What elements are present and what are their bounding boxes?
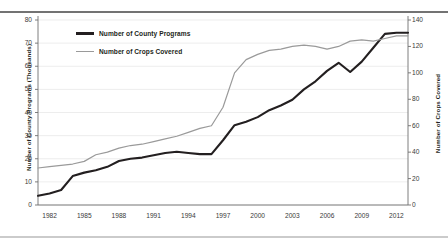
- x-tick-label: 2003: [277, 212, 307, 219]
- y-tick-label-right: 40: [412, 148, 434, 155]
- legend-item: Number of County Programs: [76, 30, 190, 37]
- chart-figure: Number of County Programs (Thousands) Nu…: [0, 0, 448, 243]
- y-tick-label-right: 100: [412, 69, 434, 76]
- y-tick-label-left: 0: [12, 201, 32, 208]
- y-tick-label-right: 140: [412, 16, 434, 23]
- x-tick-label: 2009: [347, 212, 377, 219]
- y-tick-label-left: 60: [12, 62, 32, 69]
- legend-line-swatch: [76, 32, 94, 34]
- top-margin-spacer: [0, 0, 448, 10]
- top-divider-rule: [0, 11, 448, 13]
- y-tick-label-right: 120: [412, 42, 434, 49]
- y-tick-label-left: 20: [12, 155, 32, 162]
- y-tick-label-left: 80: [12, 16, 32, 23]
- y-tick-label-left: 70: [12, 39, 32, 46]
- x-tick-label: 1985: [69, 212, 99, 219]
- legend-line-swatch: [76, 51, 94, 52]
- x-tick-label: 2000: [243, 212, 273, 219]
- x-tick-label: 1982: [35, 212, 65, 219]
- x-tick-label: 1994: [173, 212, 203, 219]
- legend-item: Number of Crops Covered: [76, 48, 182, 55]
- x-tick-label: 2006: [312, 212, 342, 219]
- y-tick-label-left: 30: [12, 132, 32, 139]
- y-tick-label-right: 80: [412, 95, 434, 102]
- y-tick-label-right: 0: [412, 201, 434, 208]
- y-tick-label-left: 10: [12, 178, 32, 185]
- y-tick-label-left: 50: [12, 85, 32, 92]
- x-tick-label: 2012: [381, 212, 411, 219]
- x-tick-label: 1991: [139, 212, 169, 219]
- chart-plot-area: [0, 0, 448, 243]
- x-tick-label: 1988: [104, 212, 134, 219]
- series-line: [38, 33, 408, 196]
- y-tick-label-right: 20: [412, 175, 434, 182]
- series-line: [38, 36, 408, 168]
- y-axis-left-title: Number of County Programs (Thousands): [25, 28, 32, 188]
- y-tick-label-left: 40: [12, 109, 32, 116]
- y-tick-label-right: 60: [412, 122, 434, 129]
- legend-label: Number of Crops Covered: [99, 48, 182, 55]
- legend-label: Number of County Programs: [99, 30, 190, 37]
- bottom-divider-rule: [0, 236, 448, 238]
- x-tick-label: 1997: [208, 212, 238, 219]
- y-axis-right-title: Number of Crops Covered: [434, 49, 441, 179]
